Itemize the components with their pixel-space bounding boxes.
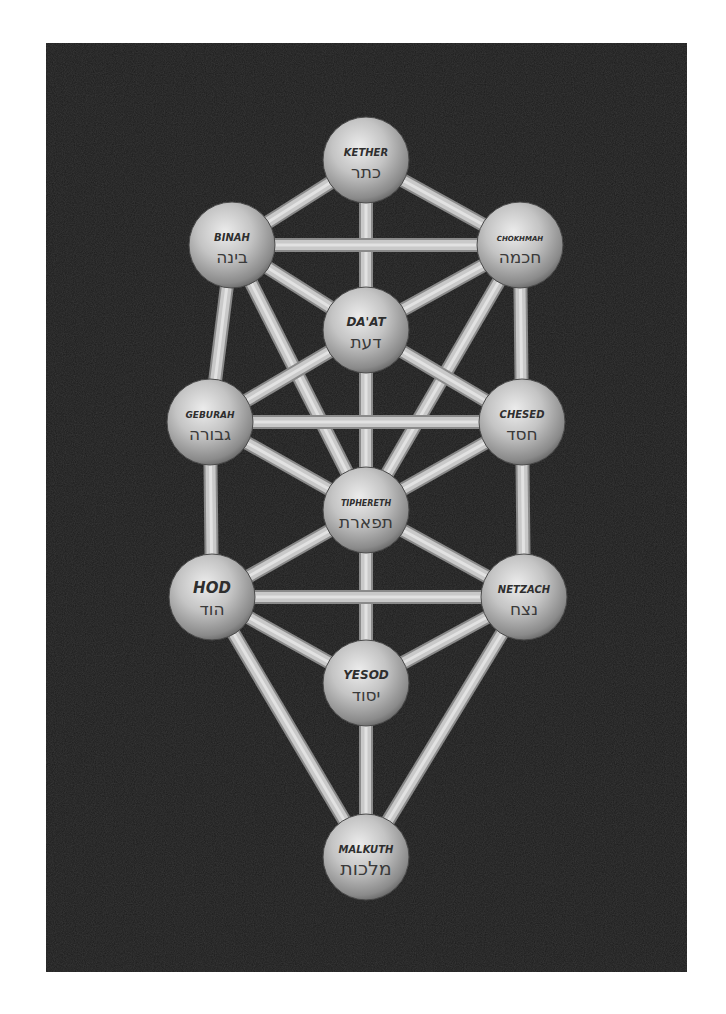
sefira-hebrew: מלכות [340, 857, 391, 879]
sphere [323, 117, 409, 203]
sefira-name: CHESED [500, 409, 545, 420]
tree-of-life-diagram: KETHERכתרBINAHבינהCHOKHMAHחכמהDA'ATדעתGE… [0, 0, 726, 1014]
sefira-name: CHOKHMAH [497, 235, 544, 243]
sefira-name: MALKUTH [339, 844, 394, 855]
sefira-hebrew: נצח [510, 599, 538, 619]
sefira-name: NETZACH [498, 584, 551, 595]
sphere [481, 554, 567, 640]
sefira-hebrew: בינה [216, 247, 248, 267]
sefira-chesed: CHESEDחסד [479, 379, 565, 465]
sphere [189, 202, 275, 288]
sefira-hod: HODהוד [169, 554, 255, 640]
sefira-malkuth: MALKUTHמלכות [323, 814, 409, 900]
sphere [323, 467, 409, 553]
sefira-geburah: GEBURAHגבורה [167, 379, 253, 465]
sefira-hebrew: גבורה [189, 424, 231, 444]
sefira-name: KETHER [344, 147, 388, 158]
sefira-name: YESOD [343, 668, 389, 682]
sefira-name: BINAH [214, 232, 250, 243]
sefira-kether: KETHERכתר [323, 117, 409, 203]
sefira-name: TIPHERETH [341, 499, 392, 508]
sphere [167, 379, 253, 465]
sefira-tiphereth: TIPHERETHתפארת [323, 467, 409, 553]
sphere [323, 640, 409, 726]
sphere [323, 287, 409, 373]
sefira-hebrew: תפארת [339, 512, 393, 532]
sefira-hebrew: חכמה [499, 247, 542, 267]
sefira-hebrew: חסד [506, 424, 537, 444]
sefira-hebrew: כתר [351, 162, 381, 182]
sefira-name: DA'AT [346, 315, 386, 329]
sefira-netzach: NETZACHנצח [481, 554, 567, 640]
sefira-yesod: YESODיסוד [323, 640, 409, 726]
sefira-hebrew: יסוד [352, 685, 381, 705]
sefira-daat: DA'ATדעת [323, 287, 409, 373]
sphere [477, 202, 563, 288]
sphere [169, 554, 255, 640]
sefira-hebrew: דעת [350, 332, 381, 352]
sphere [479, 379, 565, 465]
sefira-hebrew: הוד [199, 599, 224, 619]
sefira-name: GEBURAH [185, 410, 235, 420]
sefira-name: HOD [193, 579, 231, 597]
sefira-chokhmah: CHOKHMAHחכמה [477, 202, 563, 288]
sefira-binah: BINAHבינה [189, 202, 275, 288]
